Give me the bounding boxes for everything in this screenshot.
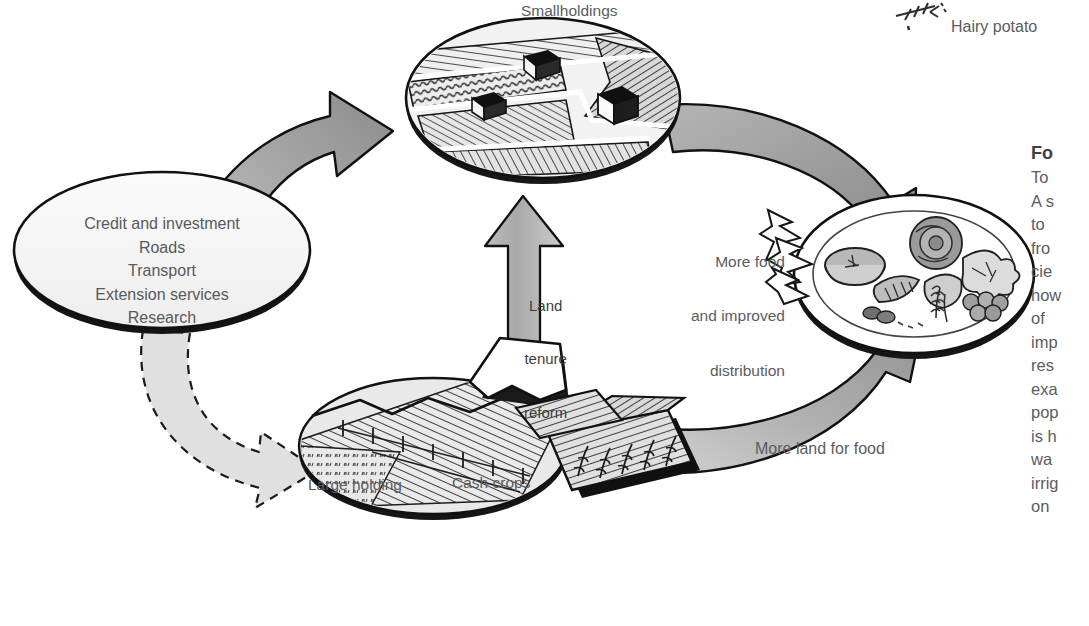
label-land-tenure-line-1: Land (524, 297, 567, 315)
label-more-food-and-improved-distribution: More food and improved distribution (691, 216, 785, 417)
hairy-potato-sprig-icon (896, 3, 946, 30)
cabbage-icon (910, 217, 962, 269)
side-text-line: wa (1031, 448, 1089, 472)
side-text-line: To (1031, 166, 1089, 190)
label-more-food-line-1: More food (691, 253, 785, 271)
bowl-icon (825, 248, 885, 285)
side-text-line: imp (1031, 331, 1089, 355)
smallholdings-disc (404, 18, 690, 184)
inputs-item-extension-services: Extension services (14, 283, 310, 307)
label-more-food-line-2: and improved (691, 307, 785, 325)
side-text-line: cie (1031, 260, 1089, 284)
side-text-column: Fo To A s to fro cie how of imp res exa … (1031, 140, 1089, 519)
side-text-line: to (1031, 213, 1089, 237)
side-text-line: irrig (1031, 472, 1089, 496)
side-text-line: of (1031, 307, 1089, 331)
label-large-holding: Large holding (308, 476, 402, 494)
side-text-line: pop (1031, 401, 1089, 425)
inputs-item-roads: Roads (14, 236, 310, 260)
inputs-item-research: Research (14, 306, 310, 330)
food-plate (794, 195, 1034, 359)
side-text-line: res (1031, 354, 1089, 378)
label-hairy-potato: Hairy potato (951, 18, 1037, 37)
label-cash-crops: Cash crops (452, 474, 530, 492)
side-text-line: A s (1031, 190, 1089, 214)
side-text-line: is h (1031, 425, 1089, 449)
arrow-support-services-dashed (141, 330, 318, 508)
inputs-item-credit-and-investment: Credit and investment (14, 212, 310, 236)
inputs-list: Credit and investment Roads Transport Ex… (14, 212, 310, 330)
inputs-item-transport: Transport (14, 259, 310, 283)
side-text-line: on (1031, 495, 1089, 519)
side-text-line: fro (1031, 237, 1089, 261)
label-more-land-for-food: More land for food (755, 440, 885, 459)
label-land-tenure-reform: Land tenure reform (524, 262, 567, 457)
label-more-food-line-3: distribution (691, 362, 785, 380)
label-land-tenure-line-2: tenure (524, 350, 567, 368)
figure-canvas: Smallholdings Hairy potato Large holding… (0, 0, 1089, 626)
side-text-line: how (1031, 284, 1089, 308)
side-text-heading: Fo (1031, 140, 1089, 166)
label-land-tenure-line-3: reform (524, 404, 567, 422)
side-text-line: exa (1031, 378, 1089, 402)
label-smallholdings: Smallholdings (521, 2, 618, 20)
